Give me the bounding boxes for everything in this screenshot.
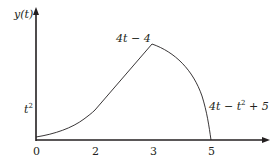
- annotation-4t-minus-t-squared-plus-5: 4t − t2 + 5: [209, 98, 269, 112]
- annotation-t-squared: t2: [24, 101, 33, 115]
- curve-t-squared: [36, 110, 95, 137]
- curve-4t-minus-t-squared-plus-5: [152, 44, 211, 140]
- y-axis-arrow-icon: [33, 7, 39, 15]
- x-tick-2: 2: [92, 146, 99, 157]
- x-tick-5: 5: [208, 146, 215, 157]
- annotation-seg3-part-b: + 5: [246, 100, 269, 113]
- x-tick-0: 0: [33, 146, 40, 157]
- x-tick-3: 3: [150, 146, 157, 157]
- annotation-4t-minus-4: 4t − 4: [116, 33, 151, 44]
- x-axis-arrow-icon: [262, 137, 270, 143]
- annotation-seg3-part-a: 4t − t: [209, 100, 241, 113]
- annotation-t-squared-exponent: 2: [28, 102, 32, 110]
- y-axis-label: y(t): [14, 9, 33, 20]
- line-4t-minus-4: [95, 44, 152, 110]
- piecewise-function-plot: [0, 0, 280, 166]
